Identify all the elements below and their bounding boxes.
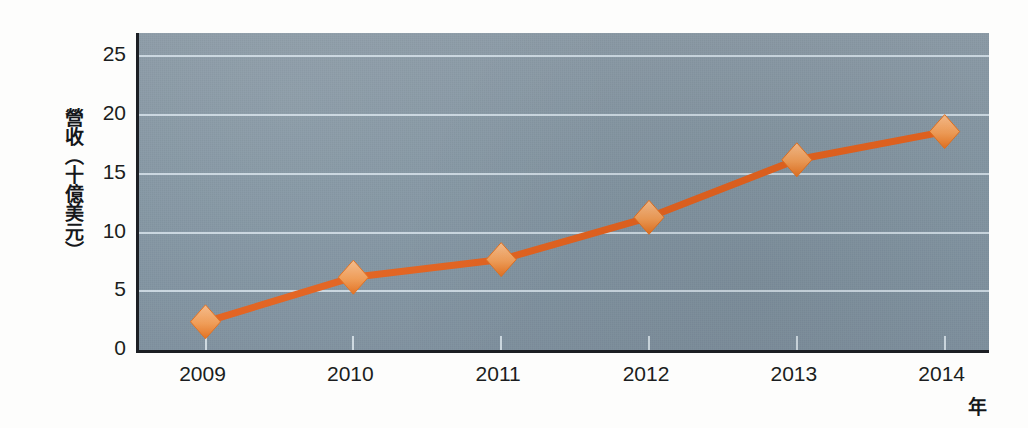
- data-point-marker: [930, 115, 960, 149]
- y-axis-tick-label: 10: [84, 219, 126, 243]
- y-axis-tick-labels: 0510152025: [80, 0, 126, 428]
- data-series-layer: [139, 33, 989, 350]
- y-axis-tick-label: 15: [84, 160, 126, 184]
- x-axis-tick-label: 2014: [882, 362, 1002, 386]
- y-axis-tick-label: 25: [84, 42, 126, 66]
- x-axis-tick-label: 2011: [438, 362, 558, 386]
- y-axis-title: 營收（十億美元）: [48, 108, 82, 260]
- x-axis-tick-label: 2012: [586, 362, 706, 386]
- line-chart: 營收（十億美元） 0510152025 20092010201120122013…: [0, 0, 1028, 428]
- x-axis-tick-label: 2009: [143, 362, 263, 386]
- x-axis-title: 年: [968, 392, 987, 419]
- y-axis-tick-label: 20: [84, 101, 126, 125]
- y-axis-tick-label: 5: [84, 277, 126, 301]
- x-axis-tick-label: 2010: [290, 362, 410, 386]
- data-point-marker: [782, 143, 812, 177]
- plot-area: [136, 33, 989, 353]
- series-line: [206, 132, 945, 322]
- data-point-marker: [634, 200, 664, 234]
- data-point-marker: [191, 305, 221, 339]
- data-point-marker: [486, 243, 516, 277]
- x-axis-tick-label: 2013: [734, 362, 854, 386]
- y-axis-tick-label: 0: [84, 336, 126, 360]
- data-point-marker: [338, 260, 368, 294]
